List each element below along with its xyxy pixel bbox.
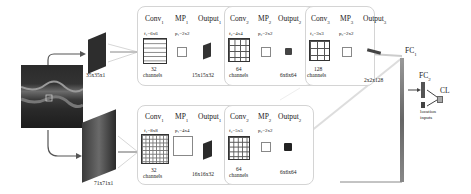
bottom-conv1-title: Conv1	[145, 113, 164, 123]
location-inputs-vector	[421, 102, 425, 108]
top-mp1-title: MP1	[175, 15, 188, 25]
input-patch-35	[88, 32, 106, 73]
top-conv1-kernel-grid	[143, 38, 167, 64]
bottom-mp1-pool-grid	[173, 136, 193, 156]
top-out3-title: Output3	[363, 15, 386, 25]
bottom-mp2-pool: p₂=2x2	[258, 128, 273, 134]
bottom-out1-title: Output1	[198, 113, 221, 123]
top-out1-title: Output1	[198, 15, 221, 25]
top-conv1-channels: channels	[143, 72, 162, 78]
top-out2-tensor	[285, 48, 292, 55]
location-inputs-label-2: inputs	[420, 115, 432, 121]
bottom-mp2-title: MP2	[258, 113, 271, 123]
cnn-architecture-diagram: 35x35x1 71x71x1 Conv1 f₁=6x6 32 channels…	[0, 0, 471, 194]
fc1-vector	[400, 58, 404, 182]
top-mp3-pool-grid	[342, 47, 352, 57]
bottom-mp1-title: MP1	[175, 113, 188, 123]
top-conv3-title: Conv3	[311, 15, 330, 25]
bottom-mp1-pool: p₁=4x4	[175, 128, 190, 134]
top-mp2-pool: p₂=2x2	[258, 31, 273, 37]
bottom-out1-size: 16x16x32	[192, 171, 214, 177]
fc1-title: FC1	[405, 47, 417, 57]
top-mp2-pool-grid	[261, 47, 271, 57]
bottom-mp2-pool-grid	[261, 142, 271, 152]
oct-input-image	[21, 65, 83, 128]
top-out1-size: 15x15x32	[192, 72, 214, 78]
bottom-conv2-channels: channels	[229, 172, 248, 178]
top-conv3-filter: f₃=3x3	[310, 31, 324, 37]
bottom-conv1-kernel-grid	[141, 134, 169, 164]
top-conv1-filter: f₁=6x6	[144, 31, 158, 37]
top-out3-size: 2x2x128	[364, 77, 383, 83]
top-conv2-channels: channels	[229, 72, 248, 78]
patch-small-label: 35x35x1	[86, 72, 105, 78]
top-conv1-title: Conv1	[145, 15, 164, 25]
bottom-out2-size: 6x6x64	[280, 169, 297, 175]
top-conv2-kernel-grid	[228, 38, 250, 62]
bottom-conv1-channels: channels	[143, 173, 162, 179]
bottom-conv2-filter: f₂=5x5	[229, 128, 243, 134]
fc2-vector	[421, 82, 425, 98]
bottom-conv1-filter: f₁=8x8	[144, 128, 158, 134]
top-mp1-pool-grid	[177, 47, 187, 57]
retina-layers-graphic	[21, 65, 83, 128]
top-mp3-pool: p₃=2x2	[339, 31, 354, 37]
bottom-conv2-title: Conv2	[230, 113, 249, 123]
patch-large-label: 71x71x1	[94, 180, 113, 186]
top-conv2-filter: f₂=4x4	[229, 31, 243, 37]
top-conv3-channels: channels	[307, 72, 326, 78]
top-mp2-title: MP2	[258, 15, 271, 25]
bottom-out1-tensor	[203, 140, 212, 159]
top-out2-size: 6x6x64	[280, 72, 297, 78]
cl-node	[437, 96, 443, 103]
bottom-out2-tensor	[284, 143, 292, 151]
top-out1-tensor	[203, 43, 211, 60]
location-inputs-label-1: location	[420, 109, 436, 115]
bottom-out2-title: Output2	[278, 113, 301, 123]
bottom-conv2-kernel-grid	[228, 136, 250, 160]
top-mp3-title: MP3	[340, 15, 353, 25]
top-conv3-kernel-grid	[309, 40, 330, 61]
cl-title: CL	[440, 87, 450, 95]
fc2-title: FC2	[419, 72, 431, 82]
top-out2-title: Output2	[278, 15, 301, 25]
top-mp1-pool: p₁=2x2	[175, 31, 190, 37]
top-conv2-title: Conv2	[230, 15, 249, 25]
